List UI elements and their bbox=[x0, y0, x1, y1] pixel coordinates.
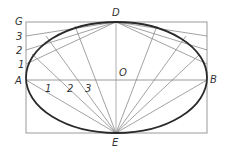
ellipse-curve bbox=[26, 22, 207, 133]
label-2-axis: 2 bbox=[67, 83, 73, 94]
label-b: B bbox=[210, 74, 217, 85]
label-1-axis: 1 bbox=[45, 83, 51, 94]
label-o: O bbox=[119, 67, 127, 78]
ellipse-construction-diagram: G 3 2 1 A D O B E 1 2 3 bbox=[0, 0, 229, 155]
label-d: D bbox=[112, 7, 120, 18]
label-1-left: 1 bbox=[18, 59, 24, 70]
left-construction-lines bbox=[26, 22, 116, 133]
label-3-axis: 3 bbox=[85, 83, 91, 94]
label-a: A bbox=[14, 75, 22, 86]
label-2-left: 2 bbox=[16, 45, 22, 56]
right-construction-lines bbox=[116, 22, 207, 133]
label-g: G bbox=[15, 16, 23, 27]
label-e: E bbox=[112, 137, 119, 148]
label-3-left: 3 bbox=[16, 31, 22, 42]
